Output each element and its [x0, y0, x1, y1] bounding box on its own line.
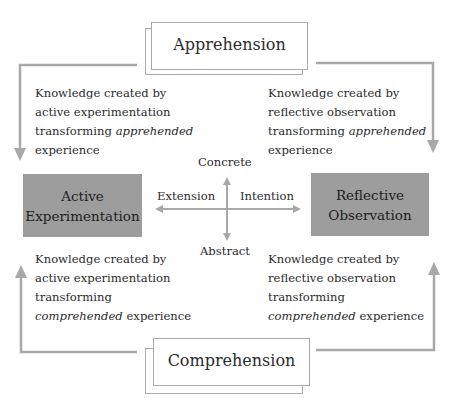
apprehension-box: Apprehension [151, 22, 308, 70]
axis-label-abstract: Abstract [200, 244, 250, 258]
text-line: comprehended experience [268, 307, 424, 326]
arrow-head-down-right [427, 140, 439, 153]
comprehension-label: Comprehension [154, 351, 309, 370]
text-plain: experience [356, 309, 424, 323]
arrow-head-up-right [428, 262, 440, 275]
text-line: transforming [268, 288, 424, 307]
text-line: reflective observation [268, 269, 424, 288]
reflective-observation-line2: Observation [328, 205, 411, 225]
text-italic: apprehended [349, 124, 427, 138]
text-plain: transforming [268, 124, 349, 138]
text-line: reflective observation [268, 103, 426, 122]
text-line: Knowledge created by [35, 84, 193, 103]
apprehension-label: Apprehension [152, 35, 307, 54]
text-plain: experience [123, 309, 191, 323]
reflective-observation-line1: Reflective [328, 185, 411, 205]
text-line: transforming [35, 288, 191, 307]
axis-label-intention: Intention [240, 189, 294, 203]
text-line: Knowledge created by [268, 84, 426, 103]
active-experimentation-line1: Active [25, 186, 139, 206]
text-line: Knowledge created by [268, 250, 424, 269]
text-line: transforming apprehended [268, 122, 426, 141]
arrow-head-concrete [223, 177, 231, 185]
quadrant-top-right-text: Knowledge created by reflective observat… [268, 84, 426, 160]
quadrant-top-left-text: Knowledge created by active experimentat… [35, 84, 193, 160]
text-italic: comprehended [268, 309, 356, 323]
active-experimentation-line2: Experimentation [25, 206, 139, 226]
arrow-head-extension [155, 205, 163, 213]
text-italic: apprehended [116, 124, 194, 138]
quadrant-bottom-left-text: Knowledge created by active experimentat… [35, 250, 191, 326]
text-line: active experimentation [35, 103, 193, 122]
text-line: active experimentation [35, 269, 191, 288]
comprehension-box: Comprehension [153, 338, 310, 386]
axis-label-concrete: Concrete [198, 155, 252, 169]
reflective-observation-box: Reflective Observation [311, 173, 429, 236]
active-experimentation-box: Active Experimentation [23, 174, 142, 237]
arrow-head-intention [293, 205, 301, 213]
text-italic: comprehended [35, 309, 123, 323]
arrow-head-abstract [223, 233, 231, 241]
text-line: Knowledge created by [35, 250, 191, 269]
quadrant-bottom-right-text: Knowledge created by reflective observat… [268, 250, 424, 326]
text-line: experience [268, 141, 426, 160]
arrow-head-down-left [14, 148, 26, 161]
axis-label-extension: Extension [157, 189, 215, 203]
text-line: transforming apprehended [35, 122, 193, 141]
text-plain: transforming [35, 124, 116, 138]
text-line: experience [35, 141, 193, 160]
arrow-head-up-left [15, 265, 27, 278]
text-line: comprehended experience [35, 307, 191, 326]
